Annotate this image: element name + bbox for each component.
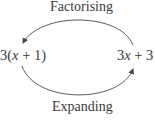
- left-coef: 3(: [0, 47, 12, 63]
- expanding-arrow: [22, 66, 133, 95]
- expanding-label: Expanding: [52, 99, 113, 115]
- left-rest: + 1): [19, 47, 47, 63]
- factorised-expression: 3(x + 1): [0, 47, 46, 64]
- factorising-arrow: [23, 20, 133, 45]
- expanded-expression: 3x + 3: [117, 47, 153, 64]
- factorising-label: Factorising: [50, 0, 113, 15]
- right-rest: + 3: [131, 47, 154, 63]
